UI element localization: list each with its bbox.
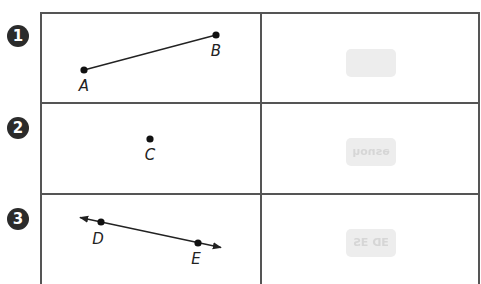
point-c <box>146 135 153 142</box>
label-b: B <box>211 42 221 60</box>
label-c: C <box>145 146 156 164</box>
point-b <box>212 31 219 38</box>
worksheet-table: 1 2 3 ǝsnoɥ ƎD ƎS A B C <box>0 0 481 284</box>
point-c-figure: C <box>145 135 156 164</box>
point-a <box>80 66 87 73</box>
point-d <box>97 218 104 225</box>
label-e: E <box>191 250 201 268</box>
geometry-figures: A B C D E <box>0 0 481 284</box>
segment-ab: A B <box>78 31 221 95</box>
point-e <box>194 239 201 246</box>
label-d: D <box>92 230 104 248</box>
line-de: D E <box>80 218 221 269</box>
label-a: A <box>78 77 89 95</box>
